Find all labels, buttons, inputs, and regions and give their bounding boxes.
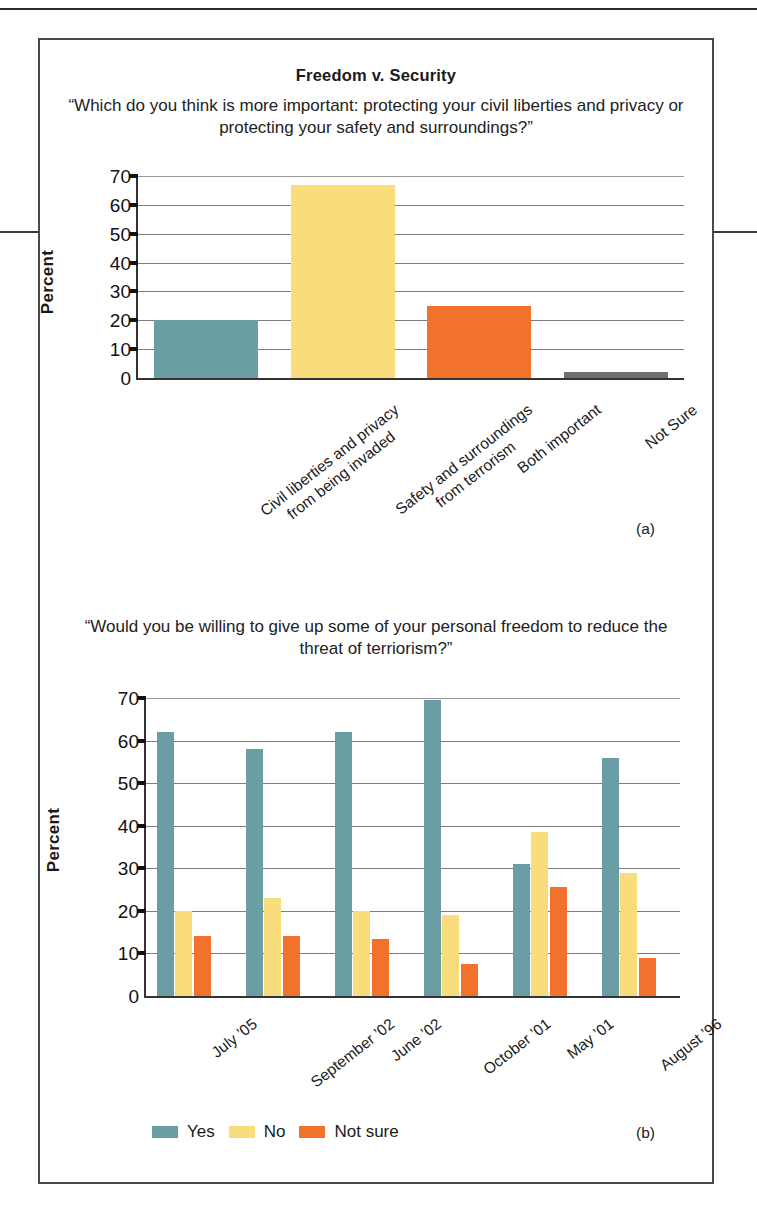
figure-title: Freedom v. Security xyxy=(40,66,712,85)
panel-a-plot-area: 010203040506070 xyxy=(136,176,684,380)
panel-a-bar xyxy=(564,372,668,378)
panel-b-gridline xyxy=(146,826,680,827)
panel-b-bar xyxy=(194,936,211,996)
page-rule-top xyxy=(0,8,757,10)
legend-swatch-icon xyxy=(152,1126,178,1138)
legend-label: Yes xyxy=(187,1122,215,1142)
panel-b-bar xyxy=(620,873,637,996)
panel-a-category-labels: Civil liberties and privacyfrom being in… xyxy=(136,400,680,540)
panel-b-gridline xyxy=(146,783,680,784)
panel-b-bar xyxy=(513,864,530,996)
panel-b-bar xyxy=(550,887,567,996)
panel-a-subtitle: “Which do you think is more important: p… xyxy=(66,95,686,140)
panel-b-category-label: October ’01 xyxy=(480,1015,555,1079)
panel-b-bar xyxy=(246,749,263,996)
panel-b-gridline xyxy=(146,868,680,869)
panel-b-legend: YesNoNot sure xyxy=(152,1122,399,1142)
legend-item[interactable]: Yes xyxy=(152,1122,215,1142)
panel-a-gridline xyxy=(138,234,684,235)
panel-a-y-tick-label: 60 xyxy=(110,195,131,214)
panel-b-bar xyxy=(353,911,370,996)
panel-b-bar xyxy=(639,958,656,996)
figure-box: Freedom v. Security “Which do you think … xyxy=(38,38,714,1184)
panel-a-bar xyxy=(427,306,531,378)
panel-a-y-tick-label: 70 xyxy=(110,167,131,186)
panel-b-y-tick-label: 30 xyxy=(118,859,139,878)
panel-b-y-tick-label: 10 xyxy=(118,944,139,963)
panel-b-category-label: August ’96 xyxy=(656,1015,725,1075)
panel-b-bar xyxy=(461,964,478,996)
panel-a-tag: (a) xyxy=(636,520,655,538)
chart-panel-b: Percent 010203040506070 xyxy=(40,690,716,1020)
panel-b-subtitle: “Would you be willing to give up some of… xyxy=(74,616,678,661)
panel-b-tag: (b) xyxy=(636,1124,655,1142)
legend-swatch-icon xyxy=(229,1126,255,1138)
panel-a-bar xyxy=(154,320,258,378)
panel-b-gridline xyxy=(146,953,680,954)
panel-b-bar xyxy=(442,915,459,996)
panel-a-gridline xyxy=(138,291,684,292)
panel-b-category-label: May ’01 xyxy=(563,1015,617,1063)
panel-a-gridline xyxy=(138,176,684,177)
panel-a-gridline xyxy=(138,263,684,264)
panel-a-category-line: from being invaded xyxy=(268,415,414,535)
panel-b-gridline xyxy=(146,741,680,742)
panel-b-y-tick-label: 40 xyxy=(118,816,139,835)
legend-item[interactable]: No xyxy=(229,1122,286,1142)
legend-label: Not sure xyxy=(334,1122,398,1142)
panel-b-category-label: July ’05 xyxy=(208,1015,261,1062)
panel-b-bar xyxy=(157,732,174,996)
panel-a-y-tick-label: 20 xyxy=(110,311,131,330)
panel-b-y-tick-label: 70 xyxy=(118,689,139,708)
panel-a-y-tick-label: 50 xyxy=(110,224,131,243)
panel-a-y-tick-label: 40 xyxy=(110,253,131,272)
panel-b-y-tick-label: 60 xyxy=(118,731,139,750)
panel-b-y-tick-label: 20 xyxy=(118,901,139,920)
panel-b-bar xyxy=(264,898,281,996)
panel-a-bar xyxy=(291,185,395,378)
panel-b-bar xyxy=(175,911,192,996)
panel-a-y-axis-label: Percent xyxy=(38,250,58,314)
panel-b-bar xyxy=(424,700,441,996)
panel-a-y-tick-label: 30 xyxy=(110,282,131,301)
panel-b-bar xyxy=(602,758,619,996)
panel-b-bar xyxy=(335,732,352,996)
chart-panel-a: Percent 010203040506070 xyxy=(40,168,716,408)
panel-a-category-line: Civil liberties and privacy xyxy=(256,400,402,520)
panel-a-category-line: Not Sure xyxy=(641,400,701,453)
panel-b-plot-area: 010203040506070 xyxy=(144,698,680,998)
panel-a-gridline xyxy=(138,205,684,206)
panel-a-category-label: Not Sure xyxy=(641,400,701,453)
panel-b-category-label: September ’02 xyxy=(307,1015,398,1092)
panel-b-category-label: June ’02 xyxy=(387,1015,445,1066)
panel-b-bar xyxy=(372,939,389,996)
legend-swatch-icon xyxy=(299,1126,325,1138)
panel-a-category-label: Civil liberties and privacyfrom being in… xyxy=(256,400,414,536)
panel-b-y-tick-label: 0 xyxy=(128,987,139,1006)
legend-item[interactable]: Not sure xyxy=(299,1122,398,1142)
panel-b-gridline xyxy=(146,698,680,699)
panel-b-bar xyxy=(283,936,300,996)
panel-b-gridline xyxy=(146,911,680,912)
panel-b-bar xyxy=(531,832,548,996)
panel-b-y-tick-label: 50 xyxy=(118,774,139,793)
panel-a-y-tick-label: 0 xyxy=(120,369,131,388)
legend-label: No xyxy=(264,1122,286,1142)
panel-a-y-tick-label: 10 xyxy=(110,340,131,359)
panel-b-y-axis-label: Percent xyxy=(44,808,64,872)
